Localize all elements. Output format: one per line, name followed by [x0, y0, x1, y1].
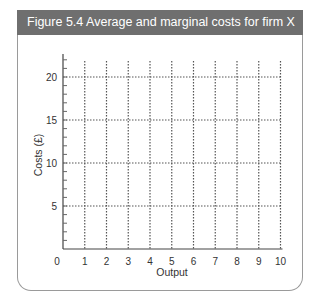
y-tick-label: 20 — [46, 72, 58, 83]
y-tick-label: 5 — [51, 201, 57, 212]
cost-chart: 5101520123456789100OutputCosts (£) — [0, 0, 314, 302]
x-tick-label: 9 — [256, 256, 262, 267]
x-tick-label: 4 — [147, 256, 153, 267]
x-tick-label: 1 — [82, 256, 88, 267]
y-axis-label: Costs (£) — [32, 134, 44, 177]
y-tick-label: 15 — [46, 115, 58, 126]
origin-label: 0 — [54, 256, 60, 267]
x-axis-label: Output — [156, 266, 188, 278]
x-tick-label: 7 — [212, 256, 218, 267]
x-tick-label: 6 — [191, 256, 197, 267]
y-tick-label: 10 — [46, 158, 58, 169]
x-tick-label: 10 — [275, 256, 287, 267]
x-tick-label: 3 — [125, 256, 131, 267]
x-tick-label: 8 — [234, 256, 240, 267]
x-tick-label: 2 — [104, 256, 110, 267]
